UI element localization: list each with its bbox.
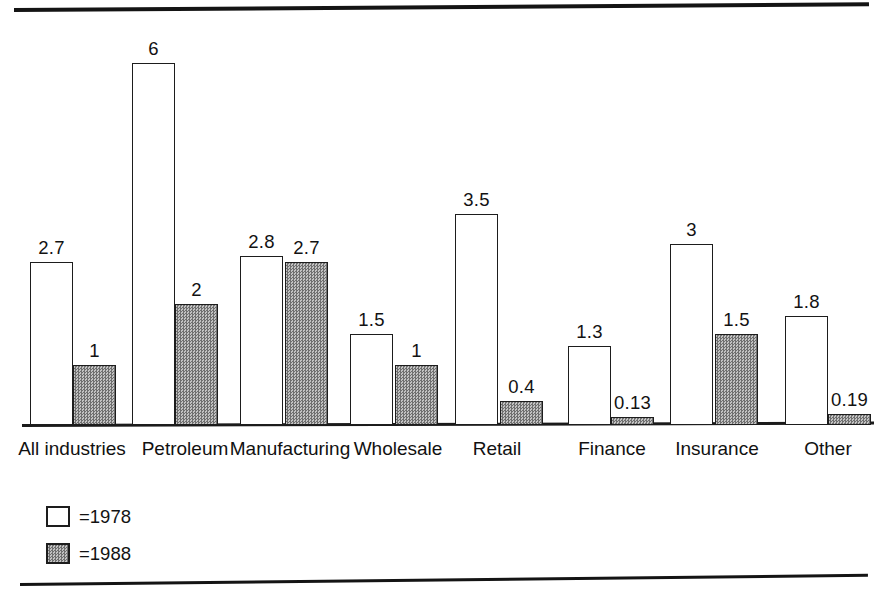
bar-value-label: 1 (89, 340, 100, 362)
bar-value-label: 6 (148, 38, 159, 60)
bar-value-label: 1.5 (723, 309, 749, 331)
bar-1978: 6 (132, 63, 175, 425)
bar-1978: 1.3 (568, 346, 611, 425)
bar-1978: 3 (670, 244, 713, 425)
bar-chart-plot-area: 2.71622.82.71.513.50.41.30.1331.51.80.19… (0, 0, 881, 470)
bar-value-label: 0.19 (831, 389, 868, 411)
bar-1988: 1 (395, 365, 438, 425)
bar-1988: 0.13 (611, 417, 654, 425)
bottom-divider-rule (20, 574, 868, 586)
bar-1978: 2.7 (30, 262, 73, 425)
bar-value-label: 0.13 (614, 392, 651, 414)
legend-label: =1978 (79, 506, 131, 528)
bar-1988: 2 (175, 304, 218, 425)
bar-1988: 1 (73, 365, 116, 425)
chart-legend: =1978=1988 (46, 498, 131, 572)
bar-value-label: 2.7 (38, 237, 64, 259)
bar-group: 1.80.19 (785, 45, 871, 425)
bar-value-label: 0.4 (508, 376, 534, 398)
bar-value-label: 2.7 (293, 237, 319, 259)
bar-1988: 2.7 (285, 262, 328, 425)
bar-group: 3.50.4 (455, 45, 543, 425)
bar-1978: 3.5 (455, 214, 498, 425)
bar-group: 1.30.13 (568, 45, 654, 425)
bar-1978: 1.5 (350, 334, 393, 425)
bar-1978: 1.8 (785, 316, 828, 425)
bar-1988: 0.19 (828, 414, 871, 425)
bar-group: 62 (132, 45, 218, 425)
legend-item: =1978 (46, 498, 131, 535)
legend-label: =1988 (79, 543, 131, 565)
legend-swatch-white (46, 506, 70, 527)
bar-group: 2.71 (30, 45, 116, 425)
bar-value-label: 1 (411, 340, 422, 362)
category-label: Other (738, 438, 881, 460)
chart-figure: 2.71622.82.71.513.50.41.30.1331.51.80.19… (0, 0, 881, 607)
bar-value-label: 3.5 (463, 189, 489, 211)
bar-value-label: 2.8 (248, 231, 274, 253)
legend-swatch-gray (46, 543, 70, 564)
bar-value-label: 1.8 (793, 291, 819, 313)
bar-1988: 1.5 (715, 334, 758, 425)
bar-value-label: 2 (191, 279, 202, 301)
bar-group: 2.82.7 (240, 45, 328, 425)
bar-1978: 2.8 (240, 256, 283, 425)
bar-value-label: 1.3 (576, 321, 602, 343)
bar-value-label: 1.5 (358, 309, 384, 331)
bar-group: 31.5 (670, 45, 758, 425)
bar-value-label: 3 (686, 219, 697, 241)
bar-group: 1.51 (350, 45, 438, 425)
bar-1988: 0.4 (500, 401, 543, 425)
legend-item: =1988 (46, 535, 131, 572)
